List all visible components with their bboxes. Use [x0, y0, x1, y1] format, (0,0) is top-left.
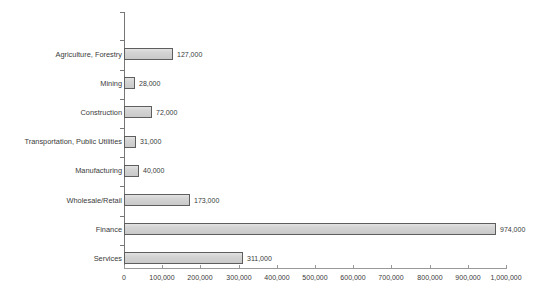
bar-value-label: 28,000	[139, 79, 160, 88]
x-axis-tick	[277, 265, 278, 269]
x-axis-tick	[430, 265, 431, 269]
x-axis-tick	[391, 265, 392, 269]
bar-value-label: 40,000	[143, 166, 164, 175]
x-axis-tick	[162, 265, 163, 269]
bar-value-label: 31,000	[140, 137, 161, 146]
x-axis-tick-label: 0	[122, 273, 126, 282]
category-label: Agriculture, Forestry	[1, 50, 122, 59]
x-axis-tick-label: 500,000	[302, 273, 327, 282]
y-axis-tick	[120, 216, 125, 217]
x-axis-tick	[315, 265, 316, 269]
category-label: Transportation, Public Utilities	[1, 137, 122, 146]
bar	[124, 194, 190, 206]
x-axis-tick-label: 600,000	[340, 273, 365, 282]
x-axis-tick-label: 100,000	[149, 273, 174, 282]
category-label: Services	[1, 254, 122, 263]
y-axis-tick	[120, 12, 125, 13]
bar	[124, 223, 496, 235]
y-axis-tick	[120, 99, 125, 100]
y-axis-tick	[120, 128, 125, 129]
x-axis-tick	[468, 265, 469, 269]
bar-value-label: 173,000	[194, 196, 219, 205]
x-axis-tick-label: 300,000	[226, 273, 251, 282]
x-axis-tick-label: 200,000	[187, 273, 212, 282]
x-axis-tick	[353, 265, 354, 269]
x-axis-tick-label: 800,000	[417, 273, 442, 282]
bar	[124, 136, 136, 148]
category-label: Manufacturing	[1, 166, 122, 175]
bar	[124, 106, 152, 118]
y-axis-tick	[120, 245, 125, 246]
bar-chart: 0100,000200,000300,000400,000500,000600,…	[0, 0, 539, 297]
x-axis-tick	[239, 265, 240, 269]
x-axis-tick	[200, 265, 201, 269]
y-axis-tick	[120, 157, 125, 158]
x-axis-tick-label: 700,000	[378, 273, 403, 282]
bar	[124, 252, 243, 264]
bar	[124, 48, 173, 60]
x-axis-tick-label: 900,000	[455, 273, 480, 282]
bar	[124, 165, 139, 177]
category-label: Construction	[1, 108, 122, 117]
category-label: Finance	[1, 225, 122, 234]
x-axis-tick	[124, 265, 125, 269]
bar-value-label: 311,000	[247, 254, 272, 263]
bar-value-label: 72,000	[156, 108, 177, 117]
bar-value-label: 127,000	[177, 50, 202, 59]
y-axis-tick	[120, 40, 125, 41]
y-axis-tick	[120, 186, 125, 187]
bar	[124, 77, 135, 89]
category-label: Wholesale/Retail	[1, 196, 122, 205]
x-axis-tick-label: 400,000	[264, 273, 289, 282]
bar-value-label: 974,000	[500, 225, 525, 234]
x-axis-tick	[506, 265, 507, 269]
y-axis-tick	[120, 70, 125, 71]
x-axis-tick-label: 1,000,000	[490, 273, 521, 282]
category-label: Mining	[1, 79, 122, 88]
